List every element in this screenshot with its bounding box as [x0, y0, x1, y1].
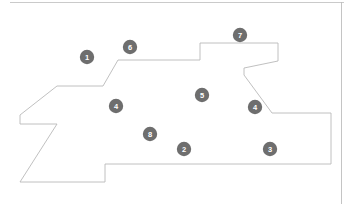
marker-1[interactable]: 1 [80, 50, 94, 64]
marker-7[interactable]: 7 [233, 28, 247, 42]
marker-circle [195, 88, 209, 102]
marker-2[interactable]: 2 [177, 142, 191, 156]
marker-3[interactable]: 3 [263, 142, 277, 156]
marker-4a[interactable]: 4 [109, 99, 123, 113]
marker-8[interactable]: 8 [143, 127, 157, 141]
marker-5[interactable]: 5 [195, 88, 209, 102]
marker-circle [109, 99, 123, 113]
marker-circle [248, 100, 262, 114]
marker-circle [123, 40, 137, 54]
marker-circle [143, 127, 157, 141]
marker-4b[interactable]: 4 [248, 100, 262, 114]
marker-circle [263, 142, 277, 156]
marker-6[interactable]: 6 [123, 40, 137, 54]
marker-circle [233, 28, 247, 42]
marker-circle [80, 50, 94, 64]
parcel-outline-map: 167454823 [0, 0, 354, 206]
marker-circle [177, 142, 191, 156]
